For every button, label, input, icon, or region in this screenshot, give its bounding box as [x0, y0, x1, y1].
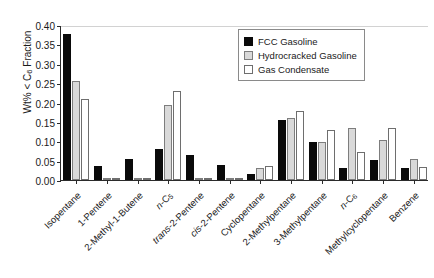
bar [94, 166, 102, 180]
bar [357, 152, 365, 180]
bar-group [122, 26, 153, 180]
bar-group [398, 26, 429, 180]
x-axis-tick-mark [260, 180, 261, 184]
bar-group [153, 26, 184, 180]
bar [155, 149, 163, 180]
bar [173, 91, 181, 181]
legend-item: Hydrocracked Gasoline [244, 48, 357, 62]
bar [265, 166, 273, 180]
bar-chart-figure: Wt% < C6 Fraction 0.000.050.100.150.200.… [0, 0, 434, 278]
bar [256, 168, 264, 180]
x-axis-tick-label: 2-Methyl-1-Butene [82, 190, 145, 253]
x-axis-tick-mark [107, 180, 108, 184]
x-axis-tick-mark [352, 180, 353, 184]
y-axis-title-suffix: Fraction [22, 31, 33, 70]
bar [388, 128, 396, 180]
x-axis-tick-mark [76, 180, 77, 184]
bar [296, 111, 304, 180]
bar [339, 168, 347, 180]
bar [401, 168, 409, 180]
x-axis-tick-mark [230, 180, 231, 184]
bar [125, 159, 133, 180]
bar-group [92, 26, 123, 180]
bar-group [61, 26, 92, 180]
bar [112, 178, 120, 180]
bar [309, 142, 317, 180]
x-axis-tick-mark [291, 180, 292, 184]
x-axis-tick-mark [168, 180, 169, 184]
x-axis-tick-mark [414, 180, 415, 184]
y-axis-title: Wt% < C6 Fraction [22, 0, 34, 152]
legend-swatch-icon [244, 37, 253, 46]
bar [278, 120, 286, 180]
y-axis-tick-mark [57, 181, 61, 182]
y-axis-title-subscript: 6 [25, 70, 34, 74]
bar [419, 167, 427, 180]
bar [247, 174, 255, 180]
bar [410, 159, 418, 180]
x-axis-tick-mark [383, 180, 384, 184]
x-axis-tick-mark [199, 180, 200, 184]
bar [72, 81, 80, 180]
x-axis-tick-label: Isopentane [42, 190, 83, 231]
bar [81, 99, 89, 180]
bar [63, 34, 71, 180]
legend-label: FCC Gasoline [258, 36, 318, 47]
legend-item: Gas Condensate [244, 62, 357, 76]
bar [235, 178, 243, 180]
bar [327, 130, 335, 180]
legend: FCC GasolineHydrocracked GasolineGas Con… [238, 29, 365, 81]
bar [164, 105, 172, 180]
bar-group [368, 26, 399, 180]
x-axis-tick-label: n-C6 [337, 190, 359, 212]
x-axis-tick-label: Benzene [386, 190, 420, 224]
legend-label: Hydrocracked Gasoline [258, 50, 357, 61]
y-axis-title-prefix: Wt% < C [22, 74, 33, 114]
bar [204, 178, 212, 180]
legend-label: Gas Condensate [258, 64, 329, 75]
bar [379, 140, 387, 180]
bar [217, 165, 225, 180]
bar [287, 118, 295, 180]
legend-swatch-icon [244, 65, 253, 74]
x-axis-tick-mark [138, 180, 139, 184]
bar [186, 155, 194, 180]
bar [370, 160, 378, 180]
x-axis-tick-mark [322, 180, 323, 184]
bar [348, 128, 356, 180]
legend-swatch-icon [244, 51, 253, 60]
bar-group [184, 26, 215, 180]
legend-item: FCC Gasoline [244, 34, 357, 48]
bar [318, 142, 326, 180]
x-axis-tick-label: 3-Methylpentane [271, 190, 329, 248]
bar [143, 178, 151, 180]
x-axis-tick-label: n-C5 [153, 190, 175, 212]
